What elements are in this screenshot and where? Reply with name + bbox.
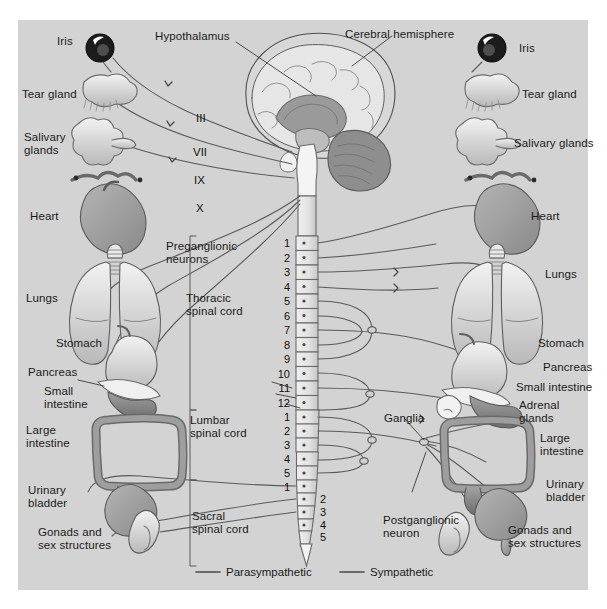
organ-tear-gland-left (83, 74, 137, 111)
label-large-intestine-right: Large intestine (540, 432, 584, 457)
label-tear-gland-left: Tear gland (22, 88, 77, 101)
cord-segment-thoracic-8: 8 (270, 339, 290, 351)
cord-segment-lumbar-5: 5 (270, 467, 290, 479)
legend-sympathetic: Sympathetic (370, 566, 433, 578)
label-ganglia: Ganglia (384, 412, 424, 425)
label-adrenal-glands-right: Adrenal glands (519, 399, 559, 424)
organ-salivary-glands-right (456, 118, 520, 165)
label-stomach-left: Stomach (56, 337, 102, 350)
cord-segment-thoracic-1: 1 (270, 237, 290, 249)
label-stomach-right: Stomach (538, 337, 584, 350)
cord-segment-thoracic-7: 7 (270, 324, 290, 336)
brain-illustration (246, 33, 395, 196)
label-lungs-right: Lungs (545, 268, 577, 281)
label-gonads-right: Gonads and sex structures (508, 524, 581, 549)
label-iris-right: Iris (519, 42, 535, 55)
label-gonads-left: Gonads and sex structures (38, 526, 111, 551)
organ-adrenal-glands-right (437, 395, 461, 419)
label-sacral-spinal-cord: Sacral spinal cord (192, 510, 249, 535)
label-salivary-glands-right: Salivary glands (514, 137, 593, 150)
cord-segment-sacral-5: 5 (320, 531, 340, 543)
label-small-intestine-right: Small intestine (516, 381, 592, 394)
label-preganglionic-neurons: Preganglionic neurons (166, 240, 237, 265)
label-cranial-nerve-ix: IX (194, 174, 205, 186)
synapse-marks-left (165, 81, 176, 162)
label-pancreas-right: Pancreas (543, 361, 592, 374)
organ-heart-right (466, 172, 540, 254)
label-cranial-nerve-vii: VII (193, 146, 207, 158)
figure-root: Hypothalamus Cerebral hemisphere III VII… (0, 0, 607, 609)
cord-segment-lumbar-2: 2 (270, 425, 290, 437)
label-small-intestine-left: Small intestine (44, 385, 88, 410)
cord-segment-sacral-4: 4 (320, 519, 340, 531)
label-thoracic-spinal-cord: Thoracic spinal cord (186, 292, 243, 317)
cord-segment-lumbar-1: 1 (270, 411, 290, 423)
cord-segment-thoracic-11: 11 (270, 382, 290, 394)
cord-segment-sacral-2: 2 (320, 493, 340, 505)
cord-segment-thoracic-4: 4 (270, 281, 290, 293)
ganglion-chain (360, 327, 376, 464)
organ-iris-left (86, 34, 114, 72)
diagram-artwork (0, 0, 607, 609)
legend-parasympathetic: Parasympathetic (226, 566, 312, 578)
label-heart-right: Heart (531, 210, 560, 223)
cord-segment-thoracic-9: 9 (270, 353, 290, 365)
cord-segment-lumbar-3: 3 (270, 439, 290, 451)
label-pancreas-left: Pancreas (28, 366, 77, 379)
label-cranial-nerve-iii: III (196, 112, 206, 124)
label-cranial-nerve-x: X (196, 202, 204, 214)
cord-segment-thoracic-12: 12 (270, 397, 290, 409)
label-urinary-bladder-left: Urinary bladder (28, 484, 67, 509)
spinal-cord (296, 196, 319, 566)
label-postganglionic-neuron: Postganglionic neuron (383, 514, 459, 539)
label-urinary-bladder-right: Urinary bladder (546, 478, 585, 503)
cord-segment-sacral-1: 1 (270, 481, 290, 493)
cord-segment-lumbar-4: 4 (270, 453, 290, 465)
label-heart-left: Heart (30, 210, 59, 223)
cord-segment-thoracic-6: 6 (270, 310, 290, 322)
label-lungs-left: Lungs (26, 292, 58, 305)
cord-segment-thoracic-10: 10 (270, 368, 290, 380)
label-iris-left: Iris (57, 35, 73, 48)
label-cerebral-hemisphere: Cerebral hemisphere (345, 28, 454, 41)
label-large-intestine-left: Large intestine (26, 424, 70, 449)
cord-segment-thoracic-5: 5 (270, 295, 290, 307)
cord-segment-thoracic-2: 2 (270, 252, 290, 264)
label-lumbar-spinal-cord: Lumbar spinal cord (190, 414, 247, 439)
cord-segment-thoracic-3: 3 (270, 266, 290, 278)
organ-salivary-glands-left (72, 118, 136, 165)
label-tear-gland-right: Tear gland (522, 88, 577, 101)
organ-pancreas-left (98, 379, 160, 399)
organ-heart-left (72, 172, 146, 254)
cord-segment-sacral-3: 3 (320, 506, 340, 518)
synapse-marks-right (394, 268, 424, 423)
organ-iris-right (472, 34, 506, 72)
label-salivary-glands-left: Salivary glands (24, 131, 66, 156)
label-hypothalamus: Hypothalamus (155, 30, 230, 43)
organ-tear-gland-right (465, 74, 519, 111)
